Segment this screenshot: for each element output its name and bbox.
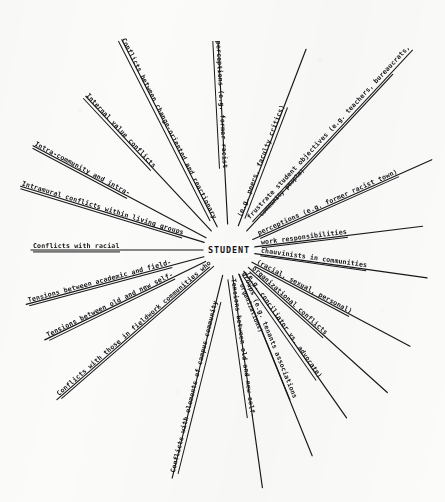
spoke-label-conflicts-with-racial: Conflicts with racial xyxy=(33,243,120,250)
spoke-label-text: Conflicts with racial xyxy=(33,242,120,252)
radial-diagram-canvas: Conflicts between change-oriented and re… xyxy=(0,0,445,502)
center-node-student: STUDENT xyxy=(205,243,253,257)
